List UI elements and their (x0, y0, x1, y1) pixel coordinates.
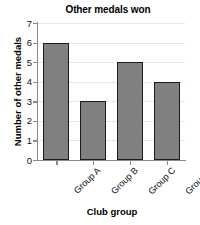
x-tick-mark (130, 161, 131, 165)
x-tick-label: Group D (184, 166, 200, 196)
y-tick-mark (33, 101, 37, 102)
gridline (38, 23, 185, 24)
y-tick-label: 5 (4, 58, 32, 68)
y-tick-mark (33, 43, 37, 44)
x-axis-spine (37, 160, 186, 161)
y-tick-label: 4 (4, 77, 32, 87)
y-tick-label: 0 (4, 156, 32, 166)
x-tick-label: Group C (147, 166, 177, 196)
y-tick-mark (33, 160, 37, 161)
bar (154, 82, 180, 160)
bar (117, 62, 143, 160)
y-tick-label: 1 (4, 136, 32, 146)
x-axis-title: Club group (38, 206, 186, 217)
x-tick-label: Group A (73, 166, 103, 196)
y-tick-label: 2 (4, 116, 32, 126)
bar (80, 101, 106, 160)
y-tick-label: 7 (4, 19, 32, 29)
y-tick-mark (33, 62, 37, 63)
y-tick-label: 6 (4, 38, 32, 48)
bar (43, 43, 69, 160)
bar-chart-figure: Other medals won Number of other medals … (0, 0, 200, 225)
x-tick-label: Group B (110, 166, 140, 196)
x-tick-mark (56, 161, 57, 165)
x-tick-mark (167, 161, 168, 165)
y-tick-mark (33, 121, 37, 122)
y-axis-tick-labels: 01234567 (0, 0, 32, 225)
plot-area (38, 23, 185, 160)
y-tick-mark (33, 140, 37, 141)
y-tick-label: 3 (4, 97, 32, 107)
y-tick-mark (33, 82, 37, 83)
chart-title: Other medals won (30, 4, 186, 15)
y-tick-mark (33, 23, 37, 24)
x-tick-mark (93, 161, 94, 165)
y-axis-spine (37, 22, 38, 161)
